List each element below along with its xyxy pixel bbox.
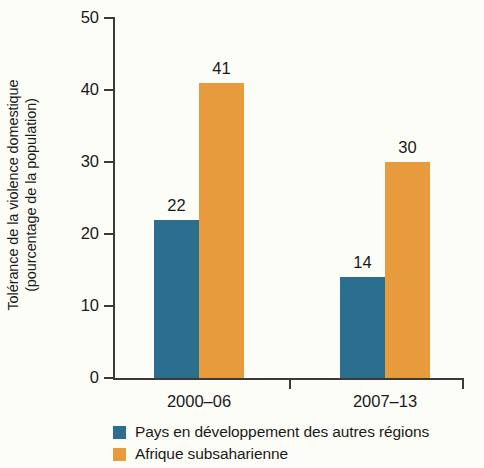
y-axis-tick-label: 10 xyxy=(81,295,99,315)
legend-label-afrique-subsaharienne: Afrique subsaharienne xyxy=(135,445,288,463)
y-axis-tick: 40 xyxy=(104,89,113,91)
y-axis-tick: 30 xyxy=(104,161,113,163)
bar: 30 xyxy=(385,162,430,378)
y-axis-tick-label: 50 xyxy=(81,7,99,27)
y-axis-title-line-2: (pourcentage de la population) xyxy=(22,98,40,292)
legend-item-afrique-subsaharienne: Afrique subsaharienne xyxy=(113,445,429,463)
bar-chart: Tolérance de la violence domestique (pou… xyxy=(0,0,484,468)
y-axis-tick: 10 xyxy=(104,305,113,307)
y-axis-title: Tolérance de la violence domestique (pou… xyxy=(0,0,44,390)
x-axis-tick xyxy=(289,379,291,389)
y-axis-tick: 50 xyxy=(104,17,113,19)
plot-area: 0102030405022412000–0614302007–13 xyxy=(113,18,464,378)
legend-item-pays-en-developpement: Pays en développement des autres régions xyxy=(113,423,429,441)
y-axis-tick: 0 xyxy=(104,377,113,379)
x-axis-category-label: 2000–06 xyxy=(167,391,231,411)
bar-value-label: 22 xyxy=(167,196,185,215)
y-axis-tick-label: 40 xyxy=(81,79,99,99)
legend-swatch-blue xyxy=(113,426,126,439)
x-axis-category-label: 2007–13 xyxy=(353,391,417,411)
bar: 14 xyxy=(340,277,385,378)
y-axis-tick-label: 0 xyxy=(90,367,99,387)
y-axis-tick-label: 20 xyxy=(81,223,99,243)
bar-value-label: 30 xyxy=(398,138,416,157)
y-axis-title-line-1: Tolérance de la violence domestique xyxy=(4,79,22,310)
y-axis-line xyxy=(113,17,115,378)
bar: 41 xyxy=(199,83,244,378)
legend-swatch-orange xyxy=(113,448,126,461)
bar-value-label: 41 xyxy=(212,59,230,78)
chart-legend: Pays en développement des autres régions… xyxy=(113,423,429,463)
bar-value-label: 14 xyxy=(353,253,371,272)
y-axis-tick-label: 30 xyxy=(81,151,99,171)
bar: 22 xyxy=(154,220,199,378)
legend-label-pays-en-developpement: Pays en développement des autres régions xyxy=(135,423,429,441)
y-axis-tick: 20 xyxy=(104,233,113,235)
x-axis-tick xyxy=(462,379,464,389)
